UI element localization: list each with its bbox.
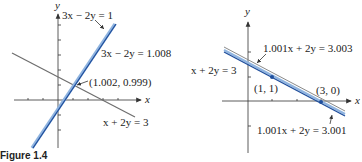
right-y-label: y [244, 5, 250, 17]
right-x-label: x [354, 94, 360, 106]
right-p1-label: (1, 1) [254, 82, 278, 95]
figure-caption: Figure 1.4 [0, 150, 47, 161]
left-chart: y 3x − 2y = 1 3x − 2y = 1.008 (1.002, 0.… [12, 0, 172, 148]
right-eq2-label: x + 2y = 3 [191, 64, 237, 76]
point-3-0 [319, 100, 323, 104]
left-eq1-label: 3x − 2y = 1 [62, 9, 113, 21]
right-y-axis [248, 22, 251, 153]
left-eq2-label: 3x − 2y = 1.008 [101, 47, 172, 59]
figure: y 3x − 2y = 1 3x − 2y = 1.008 (1.002, 0.… [0, 0, 362, 162]
right-eq3-label: 1.001x + 2y = 3.001 [257, 124, 346, 136]
left-x-axis [14, 98, 141, 100]
left-y-label: y [54, 0, 60, 11]
left-point-label: (1.002, 0.999) [89, 76, 152, 89]
left-y-axis [58, 14, 61, 148]
left-eq3-label: x + 2y = 3 [103, 116, 149, 128]
right-p2-label: (3, 0) [316, 84, 340, 97]
right-chart: y 1.001x + 2y = 3.003 x + 2y = 3 (1, 1) … [191, 5, 360, 153]
left-x-label: x [144, 93, 150, 105]
point-1-1 [270, 75, 274, 79]
right-eq1-label: 1.001x + 2y = 3.003 [263, 42, 353, 54]
right-x-axis [222, 99, 351, 101]
line-1001x-2y-3001 [224, 50, 345, 114]
